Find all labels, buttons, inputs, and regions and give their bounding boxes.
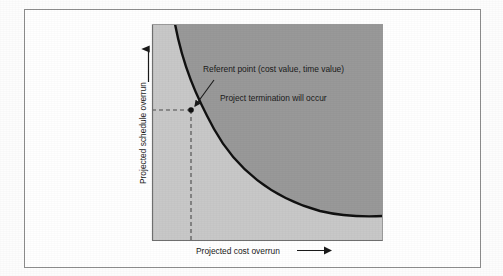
y-axis-label: Projected schedule overrun (138, 82, 148, 184)
x-axis-label: Projected cost overrun (196, 246, 280, 256)
termination-label: Project termination will occur (220, 93, 327, 103)
diagram-svg: Referent point (cost value, time value) … (0, 0, 503, 276)
figure-canvas: Referent point (cost value, time value) … (0, 0, 503, 276)
referent-point-label: Referent point (cost value, time value) (203, 64, 344, 74)
referent-point-dot-icon (188, 107, 194, 113)
